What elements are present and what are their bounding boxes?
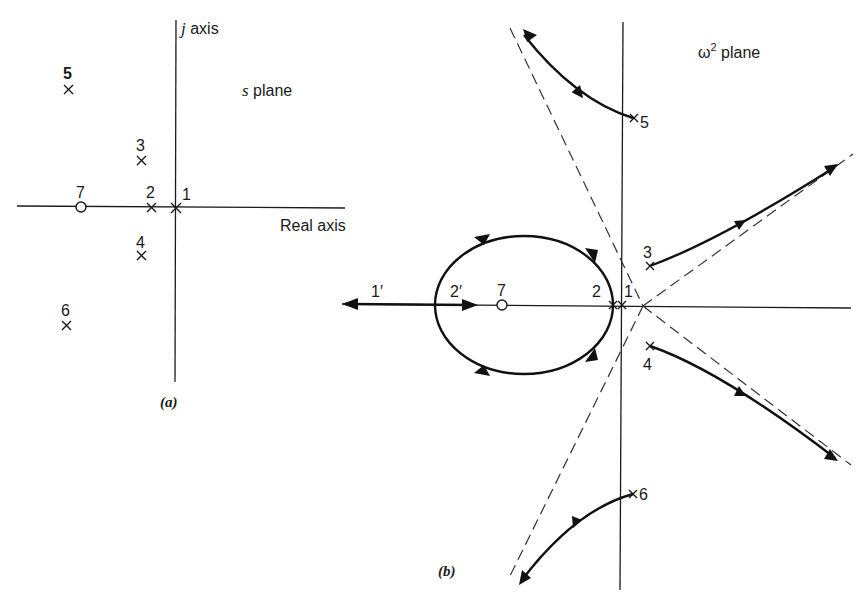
root-locus-figure: j axis Real axis s plane 1 2 3 4 5 [0,0,861,609]
arrow-right-icon [462,299,478,311]
locus-branch-5 [524,35,633,118]
panel-b-pole-5: 5 [630,114,649,131]
panel-a-pole-2: 2 [146,184,156,212]
panel-a-real-axis [17,206,345,208]
svg-text:4: 4 [136,234,145,251]
panel-a-zero-7: 7 [76,184,86,212]
locus-branch-4 [650,346,835,458]
svg-text:7: 7 [76,184,85,201]
panel-a-pole-5: 5 [63,65,73,94]
pole-x-icon [62,321,71,330]
zero-circle-icon [76,202,86,212]
arrow-left-icon [342,298,358,310]
panel-a-plane-label: s plane [242,81,292,100]
locus-branch-6 [522,494,633,580]
panel-a-pole-3: 3 [136,137,146,165]
pole-x-icon [137,251,146,260]
svg-text:5: 5 [63,65,72,82]
asymptote-lower-left [508,306,643,580]
svg-text:6: 6 [639,486,648,503]
svg-text:1: 1 [624,283,633,300]
svg-text:6: 6 [61,302,70,319]
svg-text:3: 3 [136,137,145,154]
locus-arrow [474,365,490,376]
label-1-prime: 1′ [371,283,383,300]
panel-a-real-axis-label: Real axis [280,217,346,234]
panel-a-imaginary-axis [175,20,176,382]
panel-a-pole-6: 6 [61,302,71,330]
panel-b-plane-label: ω2 plane [698,41,760,61]
svg-text:2: 2 [146,184,155,201]
pole-x-icon [64,85,73,94]
svg-text:1: 1 [182,186,191,203]
svg-text:3: 3 [643,244,652,261]
pole-x-icon [147,203,156,212]
panel-a-j-axis-label: j axis [179,19,219,38]
asymptote-lower-right [643,306,851,465]
svg-text:2: 2 [592,283,601,300]
panel-a-s-plane: j axis Real axis s plane 1 2 3 4 5 [17,19,346,411]
zero-circle-icon [497,300,507,310]
panel-a-pole-4: 4 [136,234,146,260]
label-2-prime: 2′ [450,283,462,300]
svg-text:5: 5 [640,114,649,131]
panel-a-pole-1: 1 [171,186,191,213]
arrow-icon [572,516,582,528]
svg-text:4: 4 [643,356,652,373]
locus-arrow [474,234,490,245]
locus-branch-3 [650,167,835,266]
pole-x-icon [137,156,146,165]
panel-a-caption: (a) [160,394,178,411]
panel-b-omega-squared-plane: ω2 plane 1′ 2′ 7 2 1 [342,22,853,590]
panel-b-caption: (b) [438,563,456,580]
arrow-icon [523,29,537,42]
panel-b-zero-7: 7 [497,282,507,310]
panel-b-pole-1: 1 [618,283,633,309]
locus-real-axis-segment [345,304,474,305]
svg-text:7: 7 [497,282,506,299]
